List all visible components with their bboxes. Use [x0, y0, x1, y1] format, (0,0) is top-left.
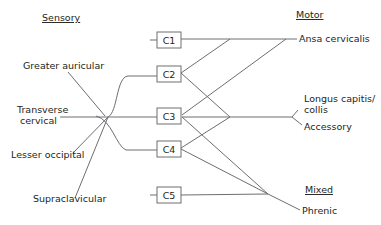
label-lesser-occipital: Lesser occipital [11, 149, 84, 160]
line-c2-ansa [181, 39, 230, 73]
root-c3: C3 [157, 108, 181, 124]
root-label-c4: C4 [163, 144, 176, 155]
root-c4: C4 [157, 141, 181, 157]
root-c5: C5 [157, 187, 181, 203]
label-supraclavicular: Supraclavicular [33, 193, 106, 204]
line-phrenic-out [268, 194, 300, 210]
header-mixed: Mixed [305, 184, 333, 195]
line-lesser-occipital [73, 117, 108, 153]
header-sensory: Sensory [42, 12, 81, 23]
cervical-plexus-diagram: C1 C2 C3 C4 C5 Sensory Motor Mixed Great… [0, 0, 381, 225]
label-transverse-cervical-line2: cervical [20, 115, 57, 126]
root-label-c5: C5 [163, 190, 176, 201]
label-ansa-cervicalis: Ansa cervicalis [299, 33, 370, 44]
line-longus-fork-down [292, 117, 302, 125]
line-junction-to-c4 [96, 116, 157, 150]
line-greater-auricular [68, 72, 105, 116]
root-c1: C1 [157, 32, 181, 48]
motor-connections [181, 39, 302, 210]
root-label-c2: C2 [163, 69, 176, 80]
root-label-c3: C3 [163, 111, 176, 122]
label-transverse-cervical-line1: Transverse [16, 104, 68, 115]
line-c5-phrenic [181, 194, 268, 195]
label-accessory: Accessory [304, 121, 352, 132]
line-junction-to-c2 [108, 76, 157, 117]
line-c4-phrenic [181, 149, 268, 194]
line-c3-ansa [182, 39, 286, 115]
root-label-c1: C1 [163, 35, 176, 46]
label-phrenic: Phrenic [302, 205, 337, 216]
label-greater-auricular: Greater auricular [23, 60, 104, 71]
label-longus-line2: collis [304, 104, 328, 115]
line-c3-phrenic [182, 117, 268, 194]
root-c2: C2 [157, 66, 181, 82]
label-longus-line1: Longus capitis/ [304, 93, 376, 104]
line-longus-fork-up [292, 110, 298, 117]
header-motor: Motor [296, 9, 324, 20]
line-c4-longus [181, 117, 230, 148]
